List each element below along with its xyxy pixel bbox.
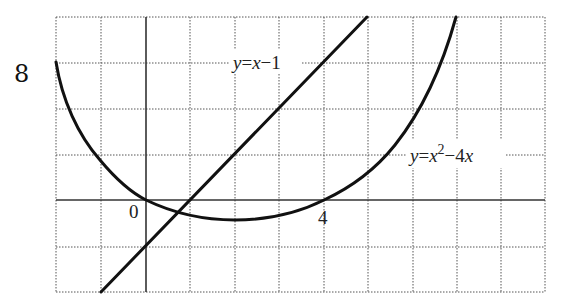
origin-label: 0 — [129, 201, 139, 222]
parabola-curve — [56, 17, 456, 220]
graph-figure: 8 0 4 y=x−1 y=x2−4x — [0, 0, 565, 303]
line-equation-label: y=x−1 — [231, 52, 281, 73]
question-number: 8 — [14, 60, 29, 88]
x-tick-4-label: 4 — [318, 207, 328, 228]
